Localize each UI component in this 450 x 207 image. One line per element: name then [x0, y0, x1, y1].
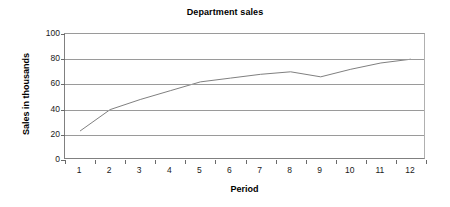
x-axis-title: Period [64, 184, 425, 194]
gridline-y [65, 59, 424, 60]
x-axis-tick [246, 160, 247, 164]
x-axis-label: 11 [365, 166, 395, 175]
x-axis-tick [185, 160, 186, 164]
x-axis-tick [306, 160, 307, 164]
chart-container: Department sales Sales in thousands Peri… [0, 0, 450, 207]
y-axis-tick [61, 135, 65, 136]
x-axis-tick [366, 160, 367, 164]
y-axis-tick [61, 84, 65, 85]
x-axis-tick [155, 160, 156, 164]
x-axis-tick [336, 160, 337, 164]
y-axis-label: 0 [26, 155, 60, 164]
x-axis-label: 8 [275, 166, 305, 175]
y-axis-tick [61, 34, 65, 35]
y-axis-label: 40 [26, 105, 60, 114]
data-series-line [65, 34, 426, 160]
x-axis-label: 5 [184, 166, 214, 175]
gridline-y [65, 84, 424, 85]
series-line-sales [80, 59, 411, 131]
x-axis-label: 6 [214, 166, 244, 175]
x-axis-tick [396, 160, 397, 164]
x-axis-tick [125, 160, 126, 164]
plot-area [64, 33, 425, 159]
x-axis-label: 4 [154, 166, 184, 175]
y-axis-label: 80 [26, 54, 60, 63]
x-axis-tick [65, 160, 66, 164]
x-axis-tick [276, 160, 277, 164]
y-axis-label: 20 [26, 130, 60, 139]
x-axis-tick [95, 160, 96, 164]
x-axis-label: 2 [94, 166, 124, 175]
x-axis-label: 10 [335, 166, 365, 175]
y-axis-title: Sales in thousands [21, 24, 31, 164]
chart-title: Department sales [0, 7, 450, 17]
x-axis-label: 3 [124, 166, 154, 175]
y-axis-tick [61, 110, 65, 111]
y-axis-tick [61, 59, 65, 60]
y-axis-label: 60 [26, 79, 60, 88]
x-axis-label: 1 [64, 166, 94, 175]
x-axis-label: 12 [395, 166, 425, 175]
x-axis-tick [426, 160, 427, 164]
x-axis-label: 9 [305, 166, 335, 175]
x-axis-tick [215, 160, 216, 164]
y-axis-label: 100 [26, 29, 60, 38]
gridline-y [65, 110, 424, 111]
gridline-y [65, 135, 424, 136]
x-axis-label: 7 [245, 166, 275, 175]
